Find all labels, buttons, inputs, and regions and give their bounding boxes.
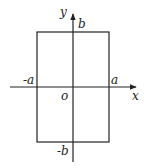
origin-label: o — [61, 89, 68, 103]
x-axis-label: x — [132, 89, 139, 103]
label-pos-b: b — [78, 17, 86, 31]
label-neg-b: -b — [57, 144, 69, 158]
label-pos-a: a — [111, 73, 118, 87]
y-axis-label: y — [59, 5, 67, 19]
label-neg-a: -a — [23, 73, 34, 87]
coordinate-diagram: y b -a a x o -b — [0, 0, 144, 168]
